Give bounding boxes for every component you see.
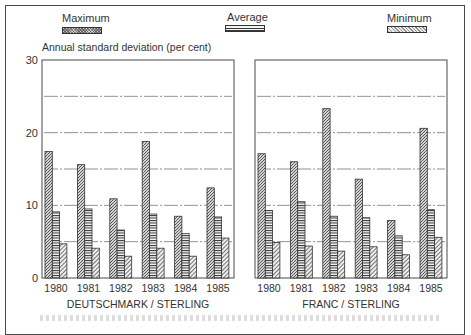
bar-maximum-1980 (258, 154, 265, 278)
x-tick-1982: 1982 (106, 282, 136, 294)
bar-average-1981 (298, 202, 305, 278)
bar-minimum-1985 (435, 237, 442, 278)
bar-maximum-1983 (142, 141, 149, 278)
bar-maximum-1984 (388, 221, 395, 278)
bar-average-1982 (117, 230, 124, 278)
panel-title-deutschmark-sterling: DEUTSCHMARK / STERLING (42, 298, 234, 310)
bar-minimum-1980 (273, 242, 280, 278)
bar-maximum-1985 (420, 128, 427, 278)
x-tick-1981: 1981 (73, 282, 103, 294)
x-tick-1982: 1982 (319, 282, 349, 294)
bar-minimum-1983 (370, 247, 377, 278)
panel-1 (255, 60, 447, 278)
bar-maximum-1985 (207, 188, 214, 278)
x-tick-1983: 1983 (138, 282, 168, 294)
bar-average-1982 (330, 216, 337, 278)
panel-0 (42, 60, 234, 278)
bar-minimum-1981 (92, 248, 99, 278)
bar-average-1981 (85, 209, 92, 278)
bar-maximum-1980 (45, 152, 52, 278)
bar-minimum-1984 (402, 255, 409, 278)
bar-minimum-1982 (124, 256, 131, 278)
x-tick-1984: 1984 (171, 282, 201, 294)
bar-minimum-1983 (157, 248, 164, 278)
bar-maximum-1981 (290, 162, 297, 278)
bar-minimum-1981 (305, 246, 312, 278)
x-tick-1984: 1984 (384, 282, 414, 294)
x-tick-1980: 1980 (254, 282, 284, 294)
x-tick-1981: 1981 (286, 282, 316, 294)
bar-maximum-1984 (175, 216, 182, 278)
x-tick-1985: 1985 (203, 282, 233, 294)
bar-maximum-1981 (77, 165, 84, 278)
bar-average-1983 (363, 218, 370, 278)
x-tick-1985: 1985 (416, 282, 446, 294)
bar-minimum-1985 (222, 238, 229, 278)
bar-average-1984 (182, 234, 189, 278)
footnote-cutoff (40, 315, 440, 321)
bar-average-1984 (395, 236, 402, 278)
bar-average-1980 (265, 210, 272, 278)
bar-maximum-1983 (355, 179, 362, 278)
bar-maximum-1982 (110, 199, 117, 278)
x-tick-1980: 1980 (41, 282, 71, 294)
bar-minimum-1982 (337, 251, 344, 278)
panel-title-franc-sterling: FRANC / STERLING (255, 298, 447, 310)
x-tick-1983: 1983 (351, 282, 381, 294)
bar-average-1980 (52, 212, 59, 278)
bar-average-1985 (427, 210, 434, 278)
bar-minimum-1980 (60, 244, 67, 278)
bar-average-1985 (214, 217, 221, 278)
bar-minimum-1984 (189, 256, 196, 278)
bar-maximum-1982 (323, 109, 330, 278)
bar-average-1983 (150, 214, 157, 278)
